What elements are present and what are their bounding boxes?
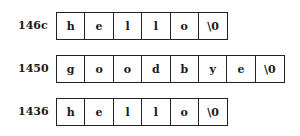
char-cell: \0 — [199, 13, 227, 39]
char-cell: e — [227, 56, 255, 82]
char-cell: d — [142, 56, 170, 82]
char-cell: o — [114, 56, 142, 82]
address-label: 146c — [18, 12, 54, 40]
char-cell: \0 — [199, 99, 227, 125]
char-cell: \0 — [256, 56, 284, 82]
char-cell: b — [171, 56, 199, 82]
char-cell: o — [171, 13, 199, 39]
char-cell: y — [199, 56, 227, 82]
char-cell: o — [171, 99, 199, 125]
char-cell: h — [57, 13, 85, 39]
address-label: 1450 — [18, 55, 54, 83]
char-cell: l — [142, 99, 170, 125]
char-cell: h — [57, 99, 85, 125]
char-array: hello\0 — [56, 98, 228, 126]
address-label: 1436 — [18, 98, 54, 126]
char-cell: l — [142, 13, 170, 39]
char-cell: e — [85, 99, 113, 125]
char-cell: g — [57, 56, 85, 82]
char-cell: o — [85, 56, 113, 82]
char-cell: l — [114, 99, 142, 125]
char-cell: e — [85, 13, 113, 39]
char-array: goodbye\0 — [56, 55, 285, 83]
char-cell: l — [114, 13, 142, 39]
char-array: hello\0 — [56, 12, 228, 40]
